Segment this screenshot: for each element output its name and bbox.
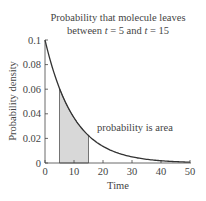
y-ticks: 00.020.040.060.080.1 <box>23 35 48 169</box>
svg-text:0.08: 0.08 <box>23 59 41 70</box>
svg-text:20: 20 <box>98 166 109 177</box>
svg-text:0: 0 <box>42 166 47 177</box>
svg-text:0: 0 <box>36 158 41 169</box>
svg-text:0.06: 0.06 <box>23 84 41 95</box>
svg-text:30: 30 <box>127 166 138 177</box>
x-axis-label: Time <box>107 180 129 191</box>
svg-text:0.02: 0.02 <box>23 133 41 144</box>
y-axis-label: Probability density <box>7 60 18 140</box>
svg-text:40: 40 <box>156 166 167 177</box>
svg-text:0.1: 0.1 <box>28 35 41 46</box>
chart: Probability that molecule leaves between… <box>0 0 206 201</box>
svg-text:10: 10 <box>69 166 80 177</box>
chart-title-line2: between t = 5 and t = 15 <box>67 25 169 36</box>
svg-text:0.04: 0.04 <box>23 108 42 119</box>
chart-title-line1: Probability that molecule leaves <box>50 12 185 23</box>
annotation: probability is area <box>97 122 173 133</box>
svg-text:50: 50 <box>185 166 196 177</box>
